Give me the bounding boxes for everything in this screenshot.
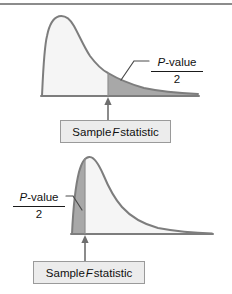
lower-stat-suffix: statistic	[94, 267, 132, 279]
lower-sample-statistic-box: Sample F statistic	[33, 261, 145, 284]
lower-stat-symbol: F	[85, 267, 94, 279]
lower-pvalue-numerator: P-value	[13, 192, 65, 205]
upper-stat-suffix: statistic	[120, 126, 158, 138]
upper-stat-prefix: Sample	[72, 126, 111, 138]
lower-panel-group	[66, 157, 213, 261]
upper-statistic-arrow	[104, 97, 111, 120]
lower-stat-prefix: Sample	[46, 267, 85, 279]
figure-root: P-value 2 P-value 2 Sample F statistic S…	[0, 0, 232, 294]
upper-pvalue-numerator: P-value	[151, 57, 203, 70]
lower-pvalue-callout: P-value 2	[13, 192, 65, 221]
lower-pvalue-fraction-bar	[13, 206, 65, 208]
upper-sample-statistic-box: Sample F statistic	[60, 120, 171, 143]
upper-pvalue-numerator-rest: -value	[165, 56, 196, 68]
lower-pvalue-numerator-rest: -value	[27, 191, 58, 203]
lower-statistic-arrow	[81, 235, 88, 261]
upper-pvalue-denominator: 2	[151, 73, 203, 86]
distribution-graphics	[0, 0, 232, 294]
upper-pvalue-fraction-bar	[151, 71, 203, 73]
upper-callout-leader-line	[121, 61, 149, 80]
upper-pvalue-callout: P-value 2	[151, 57, 203, 86]
lower-pvalue-denominator: 2	[13, 208, 65, 221]
upper-stat-symbol: F	[111, 126, 120, 138]
